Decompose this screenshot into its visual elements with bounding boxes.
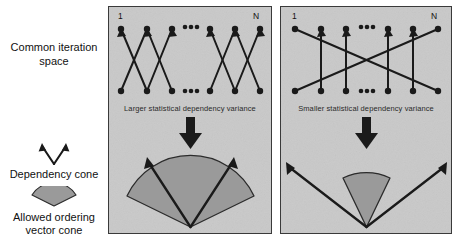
dependency-edges-left bbox=[121, 29, 260, 91]
caption-smaller-variance: Smaller statistical dependency variance bbox=[281, 104, 451, 113]
panel-larger-variance: 1 N Larger statistical dependency varian… bbox=[108, 6, 272, 234]
figure-root: Common iteration space Dependency cone A… bbox=[0, 0, 462, 244]
common-iteration-space-label: Common iteration space bbox=[0, 40, 108, 68]
shaded-fan-cone-icon bbox=[26, 186, 82, 208]
legend-ordering-cone-label-line1: Allowed ordering bbox=[0, 211, 108, 224]
legend-dependency-cone-label: Dependency cone bbox=[0, 168, 108, 181]
down-arrow-icon-left bbox=[109, 117, 272, 151]
allowed-ordering-fan-right bbox=[343, 173, 390, 227]
edge-arrowheads-left bbox=[117, 28, 265, 37]
legend-ordering-cone: Allowed ordering vector cone bbox=[0, 186, 108, 237]
node-index-start-right: 1 bbox=[292, 11, 297, 21]
legend-title-line1: Common iteration bbox=[0, 40, 108, 54]
edge-arrowheads-right bbox=[317, 28, 418, 37]
node-index-end-right: N bbox=[431, 11, 437, 21]
panel-smaller-variance: 1 N Smaller statistical dependency varia… bbox=[280, 6, 452, 234]
node-index-start-left: 1 bbox=[118, 11, 123, 21]
ellipsis-dots-left bbox=[183, 25, 200, 94]
dependency-edges-right bbox=[295, 29, 438, 91]
legend-column: Common iteration space Dependency cone A… bbox=[0, 0, 108, 244]
cone-diagram-right bbox=[281, 147, 452, 234]
node-index-end-left: N bbox=[253, 11, 259, 21]
legend-title-line2: space bbox=[0, 54, 108, 68]
caption-larger-variance: Larger statistical dependency variance bbox=[109, 104, 271, 113]
cone-diagram-left bbox=[109, 147, 272, 234]
legend-dependency-cone: Dependency cone bbox=[0, 140, 108, 181]
down-arrow-icon-right bbox=[281, 117, 452, 151]
v-arrow-cone-icon bbox=[34, 140, 74, 166]
legend-ordering-cone-label-line2: vector cone bbox=[0, 224, 108, 237]
